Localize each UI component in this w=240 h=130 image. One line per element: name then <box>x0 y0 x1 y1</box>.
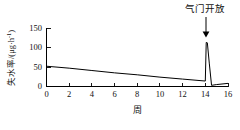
x-axis-title: 周 <box>133 105 142 115</box>
x-tick-label-8: 8 <box>135 89 139 99</box>
y-tick-label-150: 150 <box>29 23 42 33</box>
annotation-arrow-head-icon <box>203 32 210 38</box>
y-tick-label-0: 0 <box>38 81 42 91</box>
x-tick-label-0: 0 <box>44 89 48 99</box>
x-tick-label-12: 12 <box>178 89 187 99</box>
chart-figure: 失水率/(μg·h-1) 150 100 50 0 <box>0 0 240 130</box>
x-tick-label-4: 4 <box>90 89 95 99</box>
x-tick-label-6: 6 <box>112 89 116 99</box>
x-tick-label-16: 16 <box>224 89 233 99</box>
y-tick-label-100: 100 <box>29 42 42 52</box>
y-tick-label-50: 50 <box>34 62 43 72</box>
y-axis-title: 失水率/(μg·h-1) <box>5 30 16 86</box>
y-axis-title-close: ) <box>6 30 16 33</box>
svg-text:失水率/(μg·h-1): 失水率/(μg·h-1) <box>5 30 16 86</box>
y-axis-title-unit: μg·h <box>6 37 16 54</box>
water-loss-rate-line-chart: 失水率/(μg·h-1) 150 100 50 0 <box>0 0 240 130</box>
x-tick-label-2: 2 <box>67 89 71 99</box>
x-tick-label-14: 14 <box>201 89 210 99</box>
y-axis-title-name: 失水率 <box>6 59 16 86</box>
annotation-stomata-open: 气门开放 <box>185 3 225 38</box>
x-tick-marks <box>47 83 229 87</box>
series-line-water-loss-rate <box>47 42 229 85</box>
axis-spines <box>47 28 229 87</box>
annotation-label: 气门开放 <box>185 3 225 14</box>
x-tick-label-10: 10 <box>156 89 165 99</box>
y-tick-marks <box>47 28 51 87</box>
